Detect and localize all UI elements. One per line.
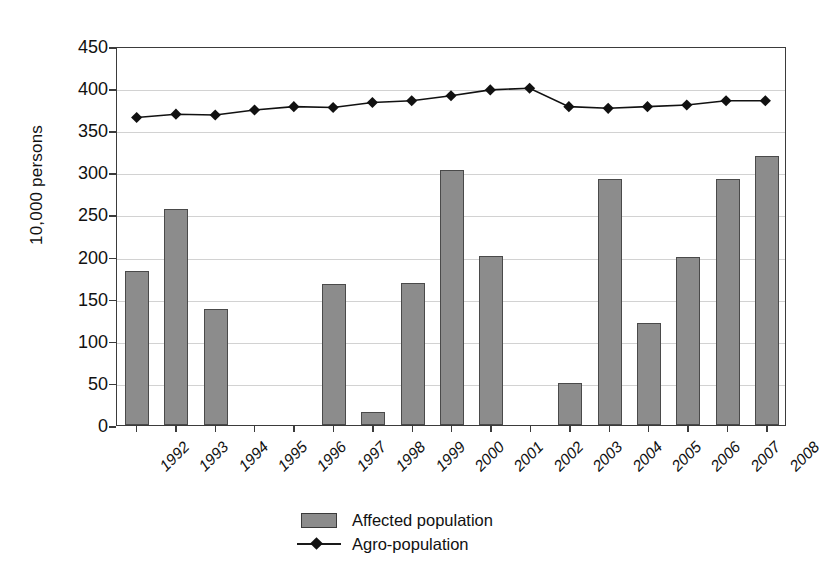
legend-label-affected-population: Affected population [352,511,493,530]
x-tick-label: 1993 [195,438,232,475]
line-marker-diamond [720,95,731,106]
x-tick-label: 2006 [708,438,745,475]
x-tick-mark [609,426,610,432]
line-series [117,48,785,425]
y-tick-mark [109,215,116,217]
y-tick-mark [109,258,116,260]
line-marker-diamond [642,101,653,112]
x-tick-mark [766,426,767,432]
y-tick-label: 50 [38,373,108,394]
line-marker-diamond [603,103,614,114]
y-tick-label: 350 [38,121,108,142]
y-tick-mark [109,131,116,133]
line-diamond-icon [296,537,342,551]
y-tick-mark [109,426,116,428]
x-tick-mark [648,426,649,432]
x-tick-mark [490,426,491,432]
x-tick-mark [293,426,294,432]
line-marker-diamond [485,84,496,95]
y-tick-mark [109,89,116,91]
x-tick-mark [136,426,137,432]
x-tick-label: 1998 [392,438,429,475]
x-tick-label: 2002 [550,438,587,475]
line-marker-diamond [406,95,417,106]
x-tick-mark [530,426,531,432]
x-tick-label: 1995 [274,438,311,475]
x-tick-mark [569,426,570,432]
y-tick-label: 150 [38,289,108,310]
line-marker-diamond [367,97,378,108]
x-tick-mark [372,426,373,432]
line-marker-diamond [760,95,771,106]
x-tick-mark [412,426,413,432]
line-marker-diamond [210,109,221,120]
y-tick-label: 0 [38,416,108,437]
x-tick-mark [175,426,176,432]
y-tick-mark [109,300,116,302]
y-tick-label: 450 [38,37,108,58]
y-tick-mark [109,342,116,344]
y-tick-mark [109,173,116,175]
x-tick-label: 1997 [353,438,390,475]
y-tick-label: 100 [38,331,108,352]
line-marker-diamond [170,109,181,120]
x-tick-label: 2005 [668,438,705,475]
x-tick-mark [451,426,452,432]
x-tick-mark [215,426,216,432]
line-marker-diamond [131,112,142,123]
legend-item-affected-population: Affected population [296,508,493,532]
y-tick-label: 250 [38,205,108,226]
x-tick-mark [727,426,728,432]
y-tick-mark [109,47,116,49]
line-marker-diamond [328,102,339,113]
x-tick-label: 2007 [747,438,784,475]
x-tick-label: 2000 [471,438,508,475]
line-marker-diamond [563,101,574,112]
x-tick-label: 2001 [511,438,548,475]
x-tick-mark [333,426,334,432]
line-marker-diamond [249,104,260,115]
legend-label-agro-population: Agro-population [352,535,469,554]
line-marker-diamond [288,101,299,112]
plot-area [116,47,786,426]
x-tick-label: 2008 [786,438,823,475]
line-marker-diamond [524,83,535,94]
y-tick-label: 300 [38,163,108,184]
x-tick-label: 1996 [313,438,350,475]
x-tick-mark [254,426,255,432]
y-tick-mark [109,384,116,386]
line-marker-diamond [445,90,456,101]
x-tick-label: 2003 [589,438,626,475]
x-tick-mark [687,426,688,432]
bar-swatch-icon [296,513,342,528]
x-tick-label: 1994 [235,438,272,475]
x-tick-label: 2004 [629,438,666,475]
y-tick-label: 400 [38,79,108,100]
legend-item-agro-population: Agro-population [296,532,493,556]
chart-legend: Affected population Agro-population [296,508,493,556]
x-tick-label: 1992 [156,438,193,475]
line-marker-diamond [681,99,692,110]
x-tick-label: 1999 [432,438,469,475]
y-tick-label: 200 [38,247,108,268]
